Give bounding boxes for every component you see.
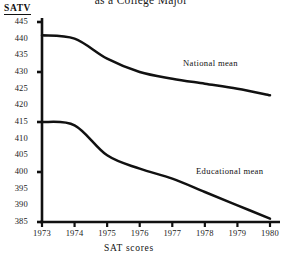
plot-area xyxy=(0,0,282,259)
y-tick-label: 435 xyxy=(2,50,28,59)
y-tick-label: 410 xyxy=(2,134,28,143)
y-tick-label: 390 xyxy=(2,200,28,209)
y-tick-label: 405 xyxy=(2,150,28,159)
y-tick-label: 400 xyxy=(2,167,28,176)
series-label-national: National mean xyxy=(183,58,238,68)
x-tick-label: 1980 xyxy=(250,229,282,238)
chart-figure: as a College Major SATV 4454404354304254… xyxy=(0,0,282,259)
y-tick-label: 430 xyxy=(2,67,28,76)
axes xyxy=(37,18,280,227)
y-tick-label: 415 xyxy=(2,117,28,126)
y-tick-label: 445 xyxy=(2,17,28,26)
y-tick-label: 425 xyxy=(2,84,28,93)
y-tick-label: 420 xyxy=(2,100,28,109)
y-axis-title: SATV xyxy=(4,3,31,15)
series-label-educational: Educational mean xyxy=(196,166,263,176)
y-tick-label: 395 xyxy=(2,184,28,193)
x-axis-title: SAT scores xyxy=(0,243,258,253)
chart-title: as a College Major xyxy=(0,0,282,6)
y-tick-label: 385 xyxy=(2,217,28,226)
y-tick-label: 440 xyxy=(2,34,28,43)
